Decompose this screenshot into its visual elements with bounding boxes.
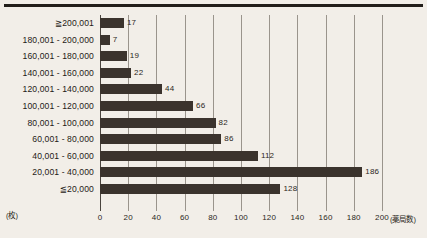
bar-value-label: 44 bbox=[165, 82, 174, 95]
bar bbox=[100, 151, 258, 161]
x-axis-tick-labels: 020406080100120140160180200 bbox=[0, 213, 427, 227]
x-tick-label: 180 bbox=[347, 213, 361, 222]
category-label: 100,001 - 120,000 bbox=[0, 98, 94, 115]
bar bbox=[100, 18, 124, 28]
bar-value-label: 112 bbox=[261, 149, 274, 162]
bar-row: 17 bbox=[100, 15, 382, 32]
category-label: 120,001 - 140,000 bbox=[0, 81, 94, 98]
bar bbox=[100, 35, 110, 45]
category-label: 180,001 - 200,000 bbox=[0, 32, 94, 49]
bar-row: 7 bbox=[100, 32, 382, 49]
x-tick-label: 200 bbox=[375, 213, 389, 222]
bar-row: 19 bbox=[100, 48, 382, 65]
x-tick-label: 80 bbox=[208, 213, 217, 222]
bar-row: 86 bbox=[100, 131, 382, 148]
bar bbox=[100, 84, 162, 94]
gridline-200 bbox=[382, 15, 383, 211]
bar-value-label: 128 bbox=[283, 182, 297, 195]
bar bbox=[100, 68, 131, 78]
bar bbox=[100, 134, 221, 144]
bar bbox=[100, 101, 193, 111]
category-label: 20,001 - 40,000 bbox=[0, 164, 94, 181]
plot-area: 177192244668286112186128 bbox=[100, 15, 382, 211]
y-axis-unit-label: (枚) bbox=[6, 209, 18, 220]
bar-value-label: 82 bbox=[219, 116, 228, 129]
bar bbox=[100, 184, 280, 194]
x-tick-label: 140 bbox=[290, 213, 304, 222]
bar-row: 44 bbox=[100, 81, 382, 98]
bar bbox=[100, 167, 362, 177]
bar-value-label: 22 bbox=[134, 66, 143, 79]
x-tick-label: 120 bbox=[262, 213, 276, 222]
horizontal-bar-chart: ≧200,001180,001 - 200,000160,001 - 180,0… bbox=[0, 0, 427, 238]
bar-value-label: 19 bbox=[130, 49, 139, 62]
top-rule-divider bbox=[4, 4, 423, 7]
bar bbox=[100, 51, 127, 61]
category-label: ≧200,001 bbox=[0, 15, 94, 32]
bar-row: 186 bbox=[100, 164, 382, 181]
x-tick-label: 40 bbox=[152, 213, 161, 222]
bar-row: 22 bbox=[100, 65, 382, 82]
x-tick-label: 100 bbox=[234, 213, 248, 222]
x-axis-unit-label: (薬局数) bbox=[390, 213, 416, 224]
x-tick-label: 20 bbox=[124, 213, 133, 222]
category-label: ≦20,000 bbox=[0, 181, 94, 198]
bar-row: 128 bbox=[100, 181, 382, 198]
x-tick-label: 0 bbox=[98, 213, 103, 222]
category-label: 40,001 - 60,000 bbox=[0, 148, 94, 165]
x-tick-label: 160 bbox=[319, 213, 333, 222]
bar-row: 82 bbox=[100, 115, 382, 132]
category-label: 60,001 - 80,000 bbox=[0, 131, 94, 148]
bar-value-label: 86 bbox=[224, 132, 233, 145]
x-tick-label: 60 bbox=[180, 213, 189, 222]
bar-value-label: 17 bbox=[127, 16, 136, 29]
bar-row: 66 bbox=[100, 98, 382, 115]
bar-value-label: 186 bbox=[365, 165, 379, 178]
bar-value-label: 66 bbox=[196, 99, 205, 112]
bar-value-label: 7 bbox=[113, 33, 118, 46]
category-label: 160,001 - 180,000 bbox=[0, 48, 94, 65]
bar bbox=[100, 118, 216, 128]
category-label: 80,001 - 100,000 bbox=[0, 115, 94, 132]
bar-row: 112 bbox=[100, 148, 382, 165]
category-label: 140,001 - 160,000 bbox=[0, 65, 94, 82]
